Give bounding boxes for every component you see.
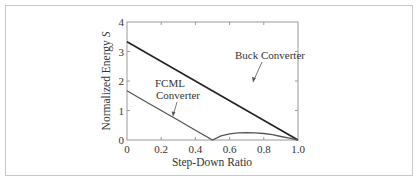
fcml-annotation-label-line2: Converter: [156, 89, 200, 101]
x-tick-label: 0.4: [189, 143, 203, 155]
x-tick-label: 0: [124, 143, 130, 155]
y-tick-label: 4: [119, 16, 125, 28]
buck-annotation-label: Buck Converter: [235, 49, 305, 61]
energy-chart: 0 0.2 0.4 0.6 0.8 1.0 0 1 2 3 4 Step-Dow…: [0, 0, 419, 184]
y-tick-label: 2: [119, 75, 125, 87]
x-axis-label: Step-Down Ratio: [172, 156, 252, 169]
y-axis-label: Normalized Energy S: [100, 31, 113, 130]
x-tick-label: 1.0: [291, 143, 305, 155]
fcml-annotation-label-line1: FCML: [155, 77, 185, 89]
x-tick-label: 0.2: [154, 143, 168, 155]
fcml-converter-line: [127, 91, 298, 140]
y-tick-label: 1: [119, 105, 125, 117]
x-tick-label: 0.8: [257, 143, 271, 155]
x-tick-label: 0.6: [223, 143, 237, 155]
y-tick-label: 0: [119, 134, 125, 146]
buck-arrow-head-icon: [252, 77, 256, 82]
y-tick-label: 3: [119, 46, 125, 58]
plot-area: [127, 22, 298, 140]
